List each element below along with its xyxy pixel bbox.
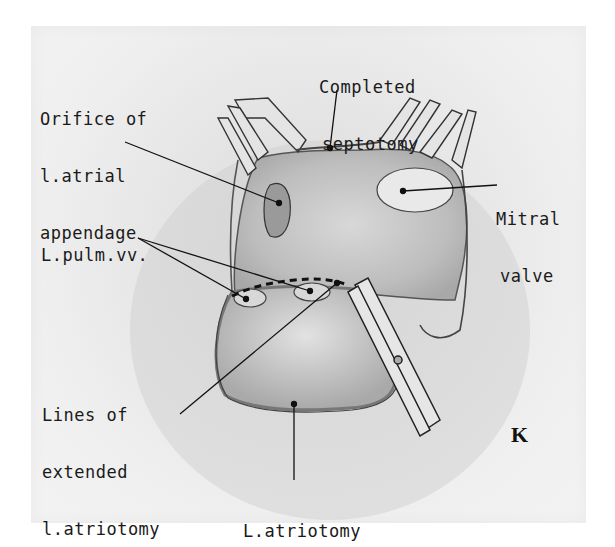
- label-line: l.atriotomy: [42, 520, 160, 539]
- label-line: l.atrial: [40, 167, 147, 186]
- label-left-atriotomy: L.atriotomy: [243, 484, 361, 547]
- label-extended-atriotomy: Lines of extended l.atriotomy: [42, 368, 160, 547]
- label-line: extended: [42, 463, 160, 482]
- label-line: septotomy: [316, 135, 419, 154]
- label-line: valve: [496, 267, 560, 286]
- label-line: Completed: [316, 78, 419, 97]
- pulmonary-vein-1: [234, 289, 266, 307]
- label-completed-septotomy: Completed septotomy: [316, 40, 419, 173]
- label-line: L.atriotomy: [243, 522, 361, 541]
- appendage-orifice: [264, 183, 290, 237]
- label-mitral-valve: Mitral valve: [496, 172, 560, 305]
- label-line: Mitral: [496, 210, 560, 229]
- label-line: Orifice of: [40, 110, 147, 129]
- label-line: Lines of: [42, 406, 160, 425]
- label-line: L.pulm.vv.: [41, 246, 148, 265]
- label-pulmonary-veins: L.pulm.vv.: [41, 208, 148, 284]
- figure-letter: K: [511, 422, 528, 448]
